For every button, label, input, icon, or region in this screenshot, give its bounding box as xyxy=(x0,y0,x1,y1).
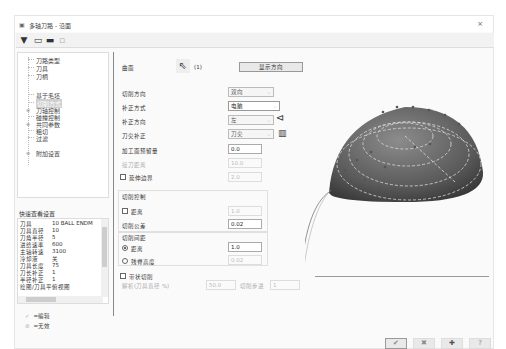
tree-connector xyxy=(28,102,34,103)
quick-view-title: 快速查看设置 xyxy=(19,209,55,218)
comp-type-select[interactable]: 电脑⌵ xyxy=(228,101,280,111)
help-button[interactable]: ? xyxy=(469,338,491,349)
tree-connector xyxy=(28,116,34,117)
copy-icon[interactable]: ▫ xyxy=(57,35,67,45)
tree-item-additional-settings[interactable]: 附加设置 xyxy=(36,149,60,158)
invalid-icon: ⊘ xyxy=(25,323,30,329)
table-row: 绘图/刀具平俯视图 xyxy=(20,283,100,291)
stepover-distance-radio[interactable] xyxy=(122,245,128,251)
tree-connector xyxy=(28,137,34,138)
window-title: 多轴刀路 - 沿面 xyxy=(29,21,71,30)
cut-distance-label: 距离 xyxy=(131,208,143,216)
row-value: 俯视图 xyxy=(52,283,70,291)
dialog-window: ▣ 多轴刀路 - 沿面 × ▼ ▭ ▬ ▫ 刀路类型 刀具 刀柄 基于毛坯 切削… xyxy=(14,15,494,349)
chevron-down-icon: ⌵ xyxy=(267,116,271,124)
contact-offset-input[interactable]: 10.0 xyxy=(228,158,262,168)
ground-line xyxy=(315,276,489,277)
cut-step-input[interactable]: 1 xyxy=(270,280,300,290)
cut-control-title: 切削控制 xyxy=(122,193,146,201)
legend-invalid: ⊘=无效 xyxy=(25,322,50,330)
surface-label: 曲面 xyxy=(122,64,134,72)
tip-comp-select[interactable]: 刀尖⌵ xyxy=(228,129,274,139)
row-value: 600 xyxy=(52,241,63,247)
cut-direction-label: 切削方向 xyxy=(122,90,146,98)
resolution-label: 解析(刀具直径 %) xyxy=(122,282,169,290)
parameter-tree: 刀路类型 刀具 刀柄 基于毛坯 切削方式 ⊕ 刀轴控制 碰撞控制 ⊕ 共同参数 … xyxy=(17,52,109,198)
selected-value: 双向 xyxy=(231,89,243,95)
stepover-distance-label: 距离 xyxy=(131,245,143,253)
tip-comp-icon[interactable]: ▥ xyxy=(278,128,287,138)
stepover-distance-input[interactable]: 1.0 xyxy=(228,242,262,252)
comp-direction-label: 补正方向 xyxy=(122,118,146,126)
selected-value: 左 xyxy=(231,117,237,123)
resolution-input[interactable]: 50.0 xyxy=(206,280,236,290)
scallop-height-radio[interactable] xyxy=(122,258,128,264)
expand-icon[interactable]: ⊕ xyxy=(25,150,31,156)
contact-offset-label: 接刀距离 xyxy=(122,161,146,169)
scroll-thumb[interactable] xyxy=(102,227,107,267)
stepover-title: 切削间距 xyxy=(122,234,146,242)
stock-to-leave-label: 加工面预留量 xyxy=(122,147,158,155)
apply-button[interactable]: ✚ xyxy=(441,338,463,349)
dome-surface-preview xyxy=(305,52,491,342)
chevron-down-icon: ⌵ xyxy=(267,130,271,138)
tree-connector xyxy=(28,67,34,68)
strip-cut-checkbox[interactable] xyxy=(120,273,126,279)
row-value: 3100 xyxy=(52,248,66,254)
parameters-panel: 曲面 ⇖ (1) 显示方向 切削方向 双向⌵ 补正方式 电脑⌵ 补正方向 左⌵ … xyxy=(113,52,303,316)
tree-connector xyxy=(28,59,34,60)
cut-tolerance-label: 切削公差 xyxy=(122,222,146,230)
app-icon: ▣ xyxy=(19,21,25,28)
legend-label: =无效 xyxy=(34,323,51,329)
tree-connector xyxy=(28,94,34,95)
comp-direction-select[interactable]: 左⌵ xyxy=(228,115,274,125)
cut-distance-checkbox[interactable] xyxy=(122,208,128,214)
vertical-scrollbar[interactable] xyxy=(101,219,108,297)
select-arrow-icon[interactable]: ⇖ xyxy=(176,59,190,73)
preview-viewport[interactable] xyxy=(305,52,491,342)
scroll-thumb[interactable] xyxy=(26,297,56,302)
tree-item-filter[interactable]: 过滤 xyxy=(36,134,48,143)
surface-count: (1) xyxy=(194,64,202,70)
legend-edit: ✓=编辑 xyxy=(25,312,50,320)
tree-connector xyxy=(28,130,34,131)
row-value: 10 BALL ENDM xyxy=(52,220,93,226)
chevron-down-icon: ⌵ xyxy=(267,88,271,96)
save-icon[interactable]: ▭ xyxy=(33,35,43,45)
display-direction-button[interactable]: 显示方向 xyxy=(239,62,303,72)
comp-type-label: 补正方式 xyxy=(122,104,146,112)
cancel-button[interactable]: ✖ xyxy=(413,338,435,349)
legend-label: =编辑 xyxy=(34,313,51,319)
row-value: 1 xyxy=(52,269,56,275)
row-value: 5 xyxy=(52,234,56,240)
tree-connector xyxy=(28,75,34,76)
row-value: 1 xyxy=(52,276,56,282)
row-key: 绘图/刀具平 xyxy=(20,283,52,291)
cut-distance-input[interactable]: 1.0 xyxy=(228,206,262,216)
horizontal-scrollbar[interactable] xyxy=(18,296,103,303)
cut-tolerance-input[interactable]: 0.02 xyxy=(228,219,262,229)
strip-cut-label: 带状切削 xyxy=(129,273,153,281)
tree-item-holder[interactable]: 刀柄 xyxy=(36,72,48,81)
selected-value: 电脑 xyxy=(231,103,243,109)
cut-direction-select[interactable]: 双向⌵ xyxy=(228,87,274,97)
check-icon: ✓ xyxy=(25,313,30,319)
extend-edges-input[interactable]: 2.0 xyxy=(228,172,262,182)
row-value: 75 xyxy=(52,262,59,268)
quick-view-table: 刀具10 BALL ENDM 刀具直径10 刀角半径5 进给速率600 主轴转速… xyxy=(17,218,109,304)
tip-comp-label: 刀尖补正 xyxy=(122,132,146,140)
expand-icon[interactable]: ⊕ xyxy=(25,107,31,113)
save-as-icon[interactable]: ▬ xyxy=(45,35,55,45)
selected-value: 刀尖 xyxy=(231,131,243,137)
tool-icon[interactable]: ▼ xyxy=(19,35,29,45)
scallop-height-input[interactable]: 0.02 xyxy=(228,255,262,265)
row-value: 10 xyxy=(52,227,59,233)
expand-icon[interactable]: ⊕ xyxy=(25,121,31,127)
toolbar: ▼ ▭ ▬ ▫ xyxy=(16,33,494,48)
stock-to-leave-input[interactable]: 0.0 xyxy=(228,144,262,154)
close-button[interactable]: × xyxy=(477,20,483,28)
ok-button[interactable]: ✔ xyxy=(385,338,407,349)
comp-direction-icon[interactable]: ⊲ xyxy=(276,112,284,123)
extend-edges-label: 延伸边界 xyxy=(129,174,153,182)
extend-edges-checkbox[interactable] xyxy=(120,174,126,180)
